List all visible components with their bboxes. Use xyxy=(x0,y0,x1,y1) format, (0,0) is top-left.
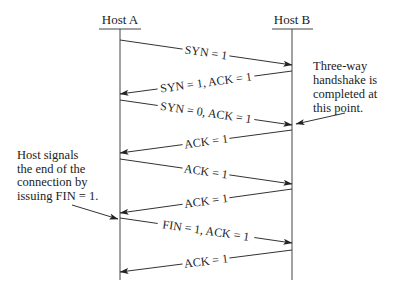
annotation-line: Host signals xyxy=(17,148,79,162)
arrowhead-icon xyxy=(120,264,183,272)
message-label: ACK = 1 xyxy=(183,191,229,211)
arrowhead-icon xyxy=(254,120,292,125)
annotation-line: Three-way xyxy=(313,59,368,73)
message-line-segment xyxy=(120,218,158,223)
message-label: SYN = 0, ACK = 1 xyxy=(159,99,252,126)
host-a-label: Host A xyxy=(102,12,139,27)
message-line-segment xyxy=(229,189,292,198)
annotation-line: connection by xyxy=(17,175,88,189)
message-arrow: SYN = 0, ACK = 1 xyxy=(120,99,292,126)
annotation-line: this point. xyxy=(313,101,363,115)
host-b-label: Host B xyxy=(274,12,311,27)
arrowhead-icon xyxy=(229,56,292,65)
message-line-segment xyxy=(120,40,183,49)
message-label: SYN = 1 xyxy=(184,42,228,62)
message-line-segment xyxy=(120,159,183,168)
annotation-line: completed at xyxy=(313,87,378,101)
fin-note: Host signalsthe end of theconnection byi… xyxy=(17,148,118,219)
message-label: ACK = 1 xyxy=(183,161,229,181)
arrowhead-icon xyxy=(120,145,183,153)
message-arrow: ACK = 1 xyxy=(120,130,292,153)
callout-arrow-icon xyxy=(72,205,118,219)
message-label: ACK = 1 xyxy=(183,251,229,270)
message-line-segment xyxy=(254,71,292,76)
message-arrow: ACK = 1 xyxy=(120,189,292,213)
arrowhead-icon xyxy=(120,204,183,213)
arrowhead-icon xyxy=(229,175,292,184)
diagram-canvas: Host A Host B SYN = 1SYN = 1, ACK = 1SYN… xyxy=(0,0,393,293)
message-label: SYN = 1, ACK = 1 xyxy=(159,69,252,95)
message-arrow: ACK = 1 xyxy=(120,159,292,184)
host-a: Host A xyxy=(99,12,141,280)
message-line-segment xyxy=(120,100,158,105)
message-label: FIN = 1, ACK = 1 xyxy=(162,217,251,243)
annotation-line: issuing FIN = 1. xyxy=(17,189,98,203)
message-arrow: SYN = 1 xyxy=(120,40,292,65)
message-arrow: SYN = 1, ACK = 1 xyxy=(120,69,292,95)
annotation-line: the end of the xyxy=(17,162,86,176)
annotation-line: handshake is xyxy=(313,73,377,87)
handshake-note: Three-wayhandshake iscompleted atthis po… xyxy=(296,59,378,124)
arrowhead-icon xyxy=(120,89,158,94)
message-arrow: ACK = 1 xyxy=(120,250,292,272)
message-line-segment xyxy=(229,250,292,258)
tcp-sequence-diagram: Host A Host B SYN = 1SYN = 1, ACK = 1SYN… xyxy=(0,0,393,293)
arrowhead-icon xyxy=(254,238,292,243)
message-arrow: FIN = 1, ACK = 1 xyxy=(120,217,292,243)
message-line-segment xyxy=(229,130,292,138)
host-b: Host B xyxy=(272,12,313,280)
message-label: ACK = 1 xyxy=(183,132,229,152)
message-list: SYN = 1SYN = 1, ACK = 1SYN = 0, ACK = 1A… xyxy=(120,40,292,272)
